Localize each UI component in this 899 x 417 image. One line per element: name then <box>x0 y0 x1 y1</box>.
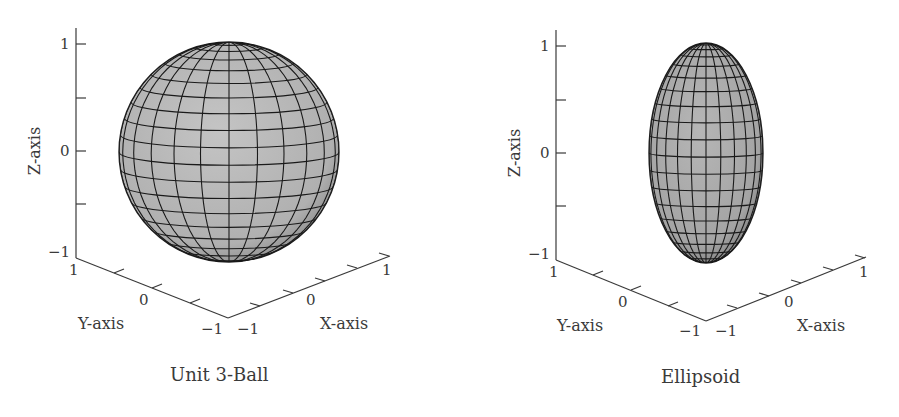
x-tick-far: 1 <box>859 265 869 280</box>
z-axis-label: Z-axis <box>27 127 43 175</box>
plot-ellipsoid: 1 0 −1 1 0 −1 −1 0 1 Z-axis Y-axis X-axi… <box>450 0 899 417</box>
x-axis-label: X-axis <box>797 318 845 334</box>
y-tick-mid: 0 <box>618 295 628 310</box>
y-tick-near: 1 <box>69 263 79 278</box>
plot-title: Ellipsoid <box>661 368 740 386</box>
z-tick-mid: 0 <box>540 146 550 161</box>
y-tick-far: −1 <box>679 324 701 339</box>
z-axis-label: Z-axis <box>507 129 523 177</box>
y-axis-label: Y-axis <box>78 316 124 332</box>
y-tick-near: 1 <box>549 265 559 280</box>
z-tick-top: 1 <box>60 37 70 52</box>
x-tick-mid: 0 <box>784 295 794 310</box>
z-tick-mid: 0 <box>60 144 70 159</box>
z-tick-top: 1 <box>540 39 550 54</box>
y-tick-mid: 0 <box>139 293 149 308</box>
x-axis-label: X-axis <box>320 316 368 332</box>
z-tick-bottom: −1 <box>48 245 70 260</box>
y-axis-label: Y-axis <box>557 318 603 334</box>
axes-3d <box>450 0 899 417</box>
sphere-surface <box>119 42 339 263</box>
plot-unit-ball: 1 0 −1 1 0 −1 −1 0 1 Z-axis Y-axis X-axi… <box>0 0 450 417</box>
ellipsoid-surface <box>649 43 763 263</box>
x-tick-near: −1 <box>237 322 259 337</box>
axes-3d <box>0 0 450 417</box>
x-tick-mid: 0 <box>306 293 316 308</box>
z-tick-bottom: −1 <box>528 247 550 262</box>
plot-title: Unit 3-Ball <box>170 366 268 384</box>
y-tick-far: −1 <box>201 322 223 337</box>
x-tick-far: 1 <box>382 263 392 278</box>
x-tick-near: −1 <box>715 324 737 339</box>
